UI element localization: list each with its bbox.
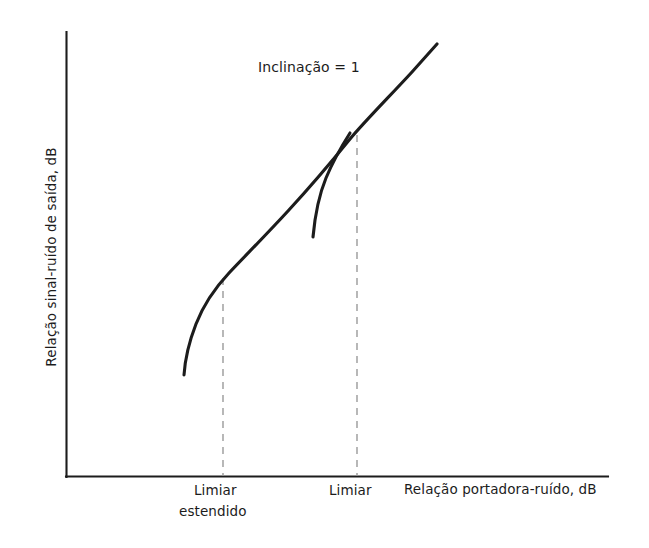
curve-limiar-estendido bbox=[184, 44, 437, 375]
x-tick-label-limiar-estendido-line2: estendido bbox=[179, 503, 247, 519]
y-axis-title: Relação sinal-ruído de saída, dB bbox=[43, 147, 59, 366]
slope-annotation-label: Inclinação = 1 bbox=[258, 59, 360, 75]
chart-canvas bbox=[0, 0, 649, 548]
figure-container: Relação sinal-ruído de saída, dB Inclina… bbox=[0, 0, 649, 548]
x-tick-label-limiar: Limiar bbox=[329, 482, 372, 498]
x-axis-title: Relação portadora-ruído, dB bbox=[404, 481, 597, 497]
y-axis-title-wrapper: Relação sinal-ruído de saída, dB bbox=[41, 107, 65, 407]
curve-limiar-convencional bbox=[313, 133, 350, 237]
x-tick-label-limiar-estendido-line1: Limiar bbox=[194, 482, 237, 498]
